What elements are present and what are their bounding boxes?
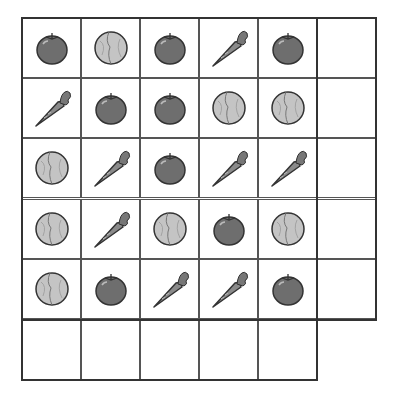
cabbage-icon <box>267 87 309 129</box>
grid-cell-tomato <box>140 18 199 78</box>
grid-cell-carrot <box>81 199 140 259</box>
carrot-icon <box>207 267 251 311</box>
cabbage-icon <box>208 87 250 129</box>
grid-cell-carrot <box>81 138 140 198</box>
empty-cell <box>81 320 140 380</box>
empty-cell <box>317 138 376 198</box>
cabbage-icon <box>267 208 309 250</box>
grid-cell-tomato <box>140 138 199 198</box>
grid-cell-tomato <box>258 259 317 319</box>
grid-cell-cabbage <box>140 199 199 259</box>
tomato-icon <box>150 148 190 188</box>
empty-cell <box>199 320 258 380</box>
cabbage-icon <box>90 27 132 69</box>
grid-cell-carrot <box>199 259 258 319</box>
grid-cell-carrot <box>199 18 258 78</box>
grid-cell-cabbage <box>258 199 317 259</box>
tomato-icon <box>268 28 308 68</box>
carrot-icon <box>207 26 251 70</box>
carrot-icon <box>148 267 192 311</box>
carrot-icon <box>89 146 133 190</box>
grid-cell-cabbage <box>258 78 317 138</box>
grid-cell-tomato <box>140 78 199 138</box>
empty-cell <box>140 320 199 380</box>
carrot-icon <box>89 207 133 251</box>
tomato-icon <box>268 269 308 309</box>
tomato-icon <box>91 88 131 128</box>
cabbage-icon <box>31 208 73 250</box>
tomato-icon <box>32 28 72 68</box>
tomato-icon <box>91 269 131 309</box>
grid-cell-carrot <box>140 259 199 319</box>
carrot-icon <box>207 146 251 190</box>
grid-cell-tomato <box>258 18 317 78</box>
grid-cell-tomato <box>199 199 258 259</box>
grid-cell-carrot <box>199 138 258 198</box>
tomato-icon <box>209 209 249 249</box>
grid-cell-cabbage <box>199 78 258 138</box>
empty-cell <box>258 320 317 380</box>
grid-cell-cabbage <box>81 18 140 78</box>
empty-cell <box>317 18 376 78</box>
grid-cell-carrot <box>22 78 81 138</box>
grid-cell-cabbage <box>22 138 81 198</box>
tomato-icon <box>150 88 190 128</box>
empty-cell <box>317 259 376 319</box>
cabbage-icon <box>149 208 191 250</box>
grid-cell-cabbage <box>22 259 81 319</box>
grid-cell-tomato <box>22 18 81 78</box>
empty-cell <box>317 78 376 138</box>
tomato-icon <box>150 28 190 68</box>
grid-cell-tomato <box>81 259 140 319</box>
grid-cell-carrot <box>258 138 317 198</box>
carrot-icon <box>266 146 310 190</box>
carrot-icon <box>30 86 74 130</box>
cabbage-icon <box>31 147 73 189</box>
empty-cell <box>317 199 376 259</box>
grid-cell-tomato <box>81 78 140 138</box>
empty-cell <box>22 320 81 380</box>
cabbage-icon <box>31 268 73 310</box>
grid-cell-cabbage <box>22 199 81 259</box>
